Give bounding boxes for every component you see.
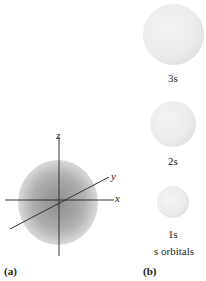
- orbitals-caption: s orbitals: [146, 245, 202, 257]
- x-axis-label: x: [115, 192, 120, 204]
- orbital-3s-sphere: [143, 4, 204, 65]
- panel-b-label: (b): [143, 265, 156, 277]
- panel-a-label: (a): [4, 265, 17, 277]
- orbital-1s-sphere: [157, 186, 189, 218]
- orbital-1s-label: 1s: [158, 228, 188, 240]
- orbital-3s-label: 3s: [158, 72, 188, 84]
- y-axis-label: y: [111, 170, 116, 182]
- z-axis-label: z: [56, 129, 60, 141]
- orbital-2s-sphere: [150, 101, 196, 147]
- orbital-2s-label: 2s: [158, 155, 188, 167]
